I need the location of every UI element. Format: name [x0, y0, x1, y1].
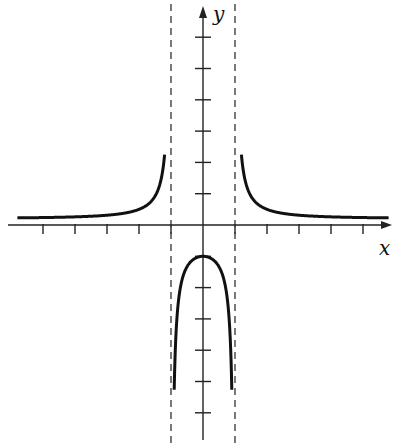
axes: [8, 6, 392, 440]
y-axis-label: y: [213, 2, 224, 26]
left-branch-curve: [17, 155, 164, 218]
right-branch-curve: [241, 155, 388, 218]
y-axis-arrow-icon: [199, 6, 207, 18]
x-axis-arrow-icon: [381, 221, 392, 229]
x-axis-label: x: [379, 236, 390, 260]
function-plot: [0, 0, 395, 445]
